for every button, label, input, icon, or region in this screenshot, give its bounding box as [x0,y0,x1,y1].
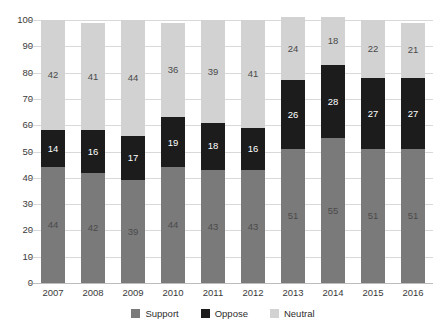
bar-value-label: 24 [288,44,299,54]
legend-item-support[interactable]: Support [131,309,178,319]
bar-value-label: 39 [208,67,219,77]
bar-segment-support[interactable]: 51 [361,149,385,283]
bar-value-label: 27 [368,109,379,119]
bar-value-label: 26 [288,110,299,120]
bar-segment-support[interactable]: 51 [281,149,305,283]
bar-segment-neutral[interactable]: 36 [161,23,185,118]
bar-segment-neutral[interactable]: 42 [41,20,65,130]
plot-area: 4414424216413917444419364318394316415126… [33,20,433,283]
bar-value-label: 16 [248,144,259,154]
legend-label: Neutral [284,309,315,319]
bar-value-label: 43 [208,222,219,232]
bar-value-label: 44 [48,220,59,230]
bar-segment-oppose[interactable]: 27 [361,78,385,149]
bar-value-label: 41 [88,72,99,82]
bar-segment-neutral[interactable]: 44 [121,20,145,136]
bar-value-label: 22 [368,44,379,54]
bar-value-label: 51 [368,211,379,221]
bar-segment-support[interactable]: 44 [41,167,65,283]
bar-value-label: 28 [328,97,339,107]
bar-value-label: 27 [408,109,419,119]
bar-segment-support[interactable]: 51 [401,149,425,283]
bar-value-label: 18 [208,141,219,151]
legend-swatch-icon [201,309,210,318]
bar-segment-support[interactable]: 44 [161,167,185,283]
bar-value-label: 39 [128,227,139,237]
bar-segment-oppose[interactable]: 14 [41,130,65,167]
y-axis: 0102030405060708090100 [0,0,33,336]
bar-value-label: 21 [408,45,419,55]
bar-value-label: 14 [48,144,59,154]
bar-segment-support[interactable]: 55 [321,138,345,283]
bar-segment-support[interactable]: 43 [201,170,225,283]
legend-label: Oppose [215,309,248,319]
bar-value-label: 51 [408,211,419,221]
stacked-bar-chart: 0102030405060708090100 44144242164139174… [0,0,446,336]
bar-segment-oppose[interactable]: 19 [161,117,185,167]
bar-value-label: 19 [168,138,179,148]
bar-segment-neutral[interactable]: 24 [281,17,305,80]
bar-segment-neutral[interactable]: 39 [201,20,225,123]
bar-group[interactable]: 391744 [121,20,145,283]
bar-group[interactable]: 552818 [321,20,345,283]
bar-segment-oppose[interactable]: 18 [201,123,225,170]
bar-value-label: 43 [248,222,259,232]
bar-value-label: 16 [88,147,99,157]
gridline [33,283,433,284]
bar-segment-oppose[interactable]: 16 [241,128,265,170]
bar-value-label: 55 [328,206,339,216]
bar-segment-neutral[interactable]: 22 [361,20,385,78]
bar-value-label: 51 [288,211,299,221]
bar-value-label: 41 [248,69,259,79]
bar-segment-neutral[interactable]: 18 [321,17,345,64]
bar-segment-support[interactable]: 42 [81,173,105,283]
bar-segment-neutral[interactable]: 41 [81,23,105,131]
bar-group[interactable]: 421641 [81,20,105,283]
bar-group[interactable]: 512721 [401,20,425,283]
legend-item-oppose[interactable]: Oppose [201,309,248,319]
bar-segment-oppose[interactable]: 16 [81,130,105,172]
bar-segment-oppose[interactable]: 28 [321,65,345,139]
bar-value-label: 36 [168,65,179,75]
bar-value-label: 42 [48,70,59,80]
bar-group[interactable]: 431839 [201,20,225,283]
bar-segment-oppose[interactable]: 17 [121,136,145,181]
bar-segment-support[interactable]: 39 [121,180,145,283]
bar-segment-oppose[interactable]: 27 [401,78,425,149]
x-tick-label: 2016 [390,288,436,298]
bar-segment-neutral[interactable]: 41 [241,20,265,128]
bar-group[interactable]: 441936 [161,20,185,283]
bar-value-label: 44 [168,220,179,230]
chart-legend: SupportOpposeNeutral [0,309,446,319]
bar-value-label: 17 [128,153,139,163]
legend-label: Support [145,309,178,319]
legend-item-neutral[interactable]: Neutral [270,309,315,319]
bar-value-label: 44 [128,73,139,83]
bar-segment-oppose[interactable]: 26 [281,80,305,148]
legend-swatch-icon [131,309,140,318]
legend-swatch-icon [270,309,279,318]
bar-segment-support[interactable]: 43 [241,170,265,283]
bar-group[interactable]: 441442 [41,20,65,283]
bar-group[interactable]: 512722 [361,20,385,283]
bar-value-label: 18 [328,36,339,46]
bar-segment-neutral[interactable]: 21 [401,23,425,78]
bar-group[interactable]: 431641 [241,20,265,283]
bar-group[interactable]: 512624 [281,20,305,283]
bar-value-label: 42 [88,223,99,233]
